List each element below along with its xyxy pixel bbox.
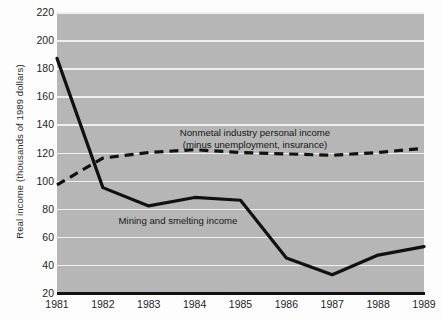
x-tick-label: 1987 (321, 298, 344, 310)
annotation-nonmetal-line-2: (minus unemployment, insurance) (152, 139, 358, 151)
x-tick-label: 1982 (91, 298, 114, 310)
x-tick-label: 1981 (45, 298, 68, 310)
x-tick-label: 1986 (275, 298, 298, 310)
x-tick-label: 1983 (137, 298, 160, 310)
x-tick-label: 1984 (183, 298, 206, 310)
chart-figure: Real income (thousands of 1989 dollars) … (0, 0, 442, 320)
annotation-mining-line-1: Mining and smelting income (96, 215, 260, 227)
annotation-mining-and-smelting: Mining and smelting income (96, 215, 260, 227)
x-axis-tick-labels: 198119821983198419851986198719881989 (0, 0, 442, 320)
x-tick-label: 1985 (229, 298, 252, 310)
annotation-nonmetal-industry: Nonmetal industry personal income (minus… (152, 127, 358, 150)
annotation-nonmetal-line-1: Nonmetal industry personal income (152, 127, 358, 139)
x-tick-label: 1989 (412, 298, 435, 310)
x-tick-label: 1988 (366, 298, 389, 310)
